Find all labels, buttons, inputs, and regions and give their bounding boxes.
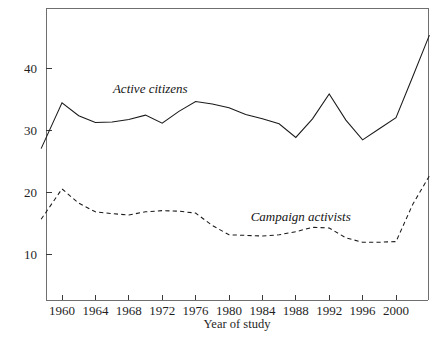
y-tick-label: 40: [24, 61, 37, 76]
x-tick-label: 1968: [116, 303, 142, 318]
y-tick-label: 30: [24, 123, 37, 138]
x-tick-label: 1996: [350, 303, 377, 318]
x-tick-label: 1988: [283, 303, 309, 318]
x-tick-label: 1972: [149, 303, 175, 318]
series-annotation-label: Campaign activists: [251, 209, 351, 224]
x-tick-label: 1984: [249, 303, 276, 318]
chart-container: 1960196419681972197619801984198819921996…: [0, 0, 438, 355]
x-tick-label: 1960: [49, 303, 75, 318]
chart-background: [0, 0, 438, 355]
series-annotation-label: Active citizens: [112, 81, 188, 96]
x-axis-tick-labels: 1960196419681972197619801984198819921996…: [49, 303, 409, 318]
x-tick-label: 1964: [82, 303, 109, 318]
x-tick-label: 2000: [383, 303, 409, 318]
y-tick-label: 10: [24, 247, 37, 262]
x-axis-title: Year of study: [204, 317, 272, 331]
x-tick-label: 1980: [216, 303, 242, 318]
line-chart: 1960196419681972197619801984198819921996…: [0, 0, 438, 355]
y-tick-label: 20: [24, 185, 37, 200]
x-tick-label: 1976: [183, 303, 210, 318]
x-tick-label: 1992: [316, 303, 342, 318]
